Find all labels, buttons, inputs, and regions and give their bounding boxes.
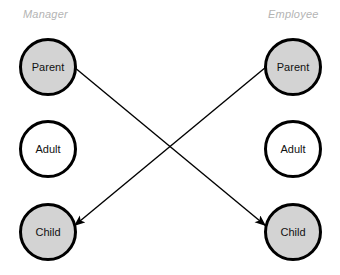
node-employee-child[interactable]: Child: [264, 203, 322, 261]
column-label-manager: Manager: [23, 8, 68, 20]
node-employee-adult[interactable]: Adult: [264, 120, 322, 178]
node-manager-parent-label: Parent: [32, 62, 64, 73]
node-manager-child-label: Child: [35, 227, 60, 238]
node-manager-adult[interactable]: Adult: [19, 120, 77, 178]
column-label-employee: Employee: [268, 8, 319, 20]
node-manager-adult-label: Adult: [35, 144, 60, 155]
node-employee-child-label: Child: [280, 227, 305, 238]
node-manager-child[interactable]: Child: [19, 203, 77, 261]
node-employee-parent[interactable]: Parent: [264, 38, 322, 96]
node-employee-adult-label: Adult: [280, 144, 305, 155]
node-employee-parent-label: Parent: [277, 62, 309, 73]
transactional-analysis-diagram: Manager Employee Parent Adult Child Pare…: [0, 0, 340, 275]
node-manager-parent[interactable]: Parent: [19, 38, 77, 96]
